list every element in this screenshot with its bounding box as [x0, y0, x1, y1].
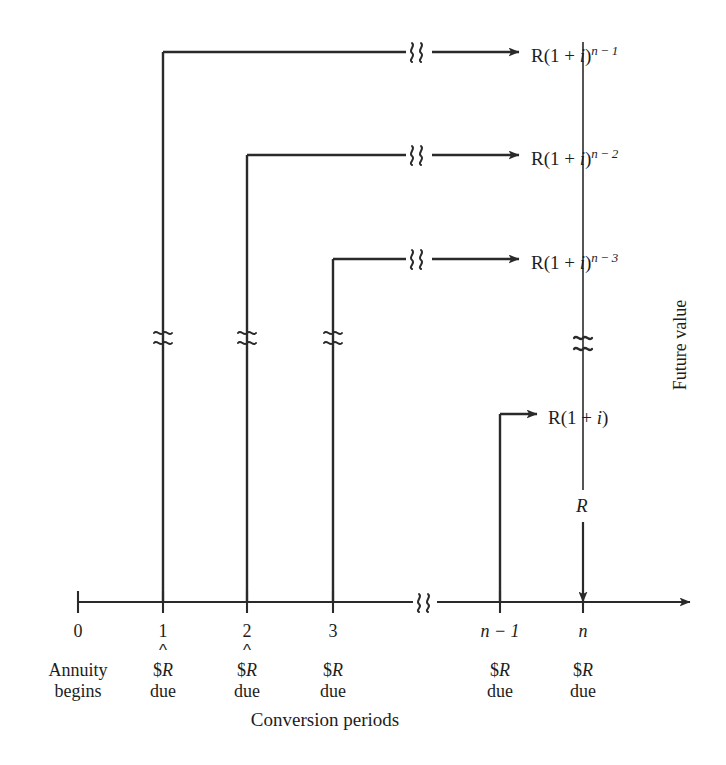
payment-caret-icon-1: ^: [159, 642, 167, 659]
tick-label-1: 1: [159, 622, 168, 640]
payment-due-n: due: [570, 681, 596, 702]
fv-2-base: R(1 + i): [531, 148, 591, 169]
future-value-caption: Future value: [671, 285, 689, 405]
payment-n-flow-path: [574, 42, 592, 602]
payment-n-minus-1-flow-path: [500, 414, 537, 602]
flow-2-break-icon: [411, 146, 413, 165]
future-value-label-period-3: R(1 + i)n − 3: [531, 253, 618, 272]
future-value-label-period-n: R: [576, 496, 588, 515]
payment-caret-icon-2: ^: [243, 642, 251, 659]
stem-3-break-icon: [324, 332, 342, 334]
payment-note-2: $R due: [234, 660, 260, 701]
annuity-begins-line-2: begins: [48, 681, 107, 702]
tick-label-3: 3: [329, 622, 338, 640]
payment-3-flow-path: [324, 250, 519, 602]
future-value-label-period-1: R(1 + i)n − 1: [531, 46, 618, 65]
stem-2-break-icon-2: [238, 342, 256, 344]
tick-label-0: 0: [74, 622, 83, 640]
stem-1-break-icon: [154, 332, 172, 334]
payment-amount-2: $R: [234, 660, 260, 681]
payment-amount-3: $R: [320, 660, 346, 681]
payment-2-flow-path: [238, 146, 519, 602]
fv-1-base: R(1 + i): [531, 45, 591, 66]
payment-due-3: due: [320, 681, 346, 702]
future-value-label-period-n-minus-1: R(1 + i): [548, 408, 608, 427]
time-axis: [78, 594, 690, 612]
annuity-begins-line-1: Annuity: [48, 660, 107, 681]
flow-2-break-icon-2: [420, 146, 422, 165]
flow-3-break-icon: [411, 250, 413, 269]
fv-n1-base: R(1 + i): [548, 407, 608, 428]
tick-label-n: n: [579, 622, 588, 640]
payment-note-3: $R due: [320, 660, 346, 701]
future-value-label-period-2: R(1 + i)n − 2: [531, 149, 618, 168]
payment-due-1: due: [150, 681, 176, 702]
stem-n-break-icon-2: [574, 348, 592, 350]
stem-3-break-icon-2: [324, 342, 342, 344]
payment-due-2: due: [234, 681, 260, 702]
payment-amount-1: $R: [150, 660, 176, 681]
payment-amount-n: $R: [570, 660, 596, 681]
tick-label-2: 2: [243, 622, 252, 640]
axis-break-icon-2: [427, 594, 429, 612]
fv-n-base: R: [576, 495, 588, 516]
annuity-begins-note: Annuity begins: [48, 660, 107, 701]
axis-break-icon: [418, 594, 420, 612]
payment-due-n-minus-1: due: [487, 681, 513, 702]
stem-n-break-icon: [574, 337, 592, 339]
stem-1-break-icon-2: [154, 342, 172, 344]
annuity-due-timeline-figure: R(1 + i)n − 1 R(1 + i)n − 2 R(1 + i)n − …: [0, 0, 726, 765]
flow-1-break-icon: [411, 43, 413, 62]
tick-label-n-minus-1: n − 1: [480, 622, 519, 640]
payment-note-n-minus-1: $R due: [487, 660, 513, 701]
payment-note-1: $R due: [150, 660, 176, 701]
diagram-canvas: [0, 0, 726, 765]
payment-amount-n-minus-1: $R: [487, 660, 513, 681]
flow-3-break-icon-2: [420, 250, 422, 269]
payment-1-flow-path: [154, 43, 519, 602]
conversion-periods-caption: Conversion periods: [251, 710, 399, 729]
flow-1-break-icon-2: [420, 43, 422, 62]
payment-note-n: $R due: [570, 660, 596, 701]
stem-2-break-icon: [238, 332, 256, 334]
fv-3-base: R(1 + i): [531, 252, 591, 273]
